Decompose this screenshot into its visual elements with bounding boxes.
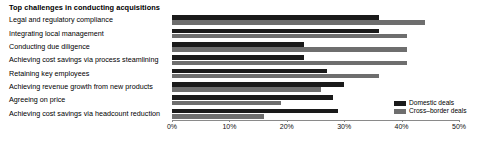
x-axis-line <box>172 120 460 121</box>
chart-legend: Domestic dealsCross–border deals <box>394 100 490 116</box>
legend-swatch <box>394 101 406 106</box>
bar-domestic <box>172 109 338 114</box>
x-tick <box>172 120 173 122</box>
bar-group <box>172 80 459 93</box>
bar-domestic <box>172 15 379 20</box>
bar-cross-border <box>172 47 407 52</box>
bar-domestic <box>172 55 304 60</box>
bar-cross-border <box>172 74 379 79</box>
category-label: Agreeing on price <box>9 96 168 103</box>
legend-item: Cross–border deals <box>394 108 490 115</box>
x-tick <box>287 120 288 122</box>
legend-swatch <box>394 109 406 114</box>
x-tick-label: 0% <box>167 123 177 130</box>
category-axis-labels: Legal and regulatory complianceIntegrati… <box>0 13 170 120</box>
legend-label: Domestic deals <box>409 100 454 107</box>
bar-cross-border <box>172 34 407 39</box>
x-tick <box>402 120 403 122</box>
category-label: Integrating local management <box>9 30 168 37</box>
bar-group <box>172 53 459 66</box>
bar-cross-border <box>172 20 425 25</box>
x-tick <box>229 120 230 122</box>
bar-cross-border <box>172 87 321 92</box>
bar-domestic <box>172 69 327 74</box>
category-label: Conducting due diligence <box>9 43 168 50</box>
category-label: Achieving revenue growth from new produc… <box>9 83 168 90</box>
chart-container: Top challenges in conducting acquisition… <box>0 0 492 143</box>
x-tick-label: 30% <box>337 123 351 130</box>
category-label: Retaining key employees <box>9 70 168 77</box>
bar-group <box>172 67 459 80</box>
legend-item: Domestic deals <box>394 100 490 107</box>
chart-title: Top challenges in conducting acquisition… <box>9 3 160 12</box>
bar-cross-border <box>172 114 264 119</box>
bar-domestic <box>172 42 304 47</box>
bar-group <box>172 40 459 53</box>
x-tick-label: 10% <box>222 123 236 130</box>
bar-cross-border <box>172 101 281 106</box>
bar-group <box>172 26 459 39</box>
category-label: Legal and regulatory compliance <box>9 16 168 23</box>
bar-group <box>172 13 459 26</box>
category-label: Achieving cost savings via process steam… <box>9 56 168 63</box>
x-tick-label: 40% <box>395 123 409 130</box>
x-tick <box>459 120 460 122</box>
x-tick <box>344 120 345 122</box>
bar-domestic <box>172 95 333 100</box>
x-tick-label: 50% <box>452 123 466 130</box>
legend-label: Cross–border deals <box>409 108 467 115</box>
x-tick-label: 20% <box>280 123 294 130</box>
bar-domestic <box>172 29 379 34</box>
bar-domestic <box>172 82 344 87</box>
bar-cross-border <box>172 61 407 66</box>
category-label: Achieving cost savings via headcount red… <box>9 110 168 117</box>
